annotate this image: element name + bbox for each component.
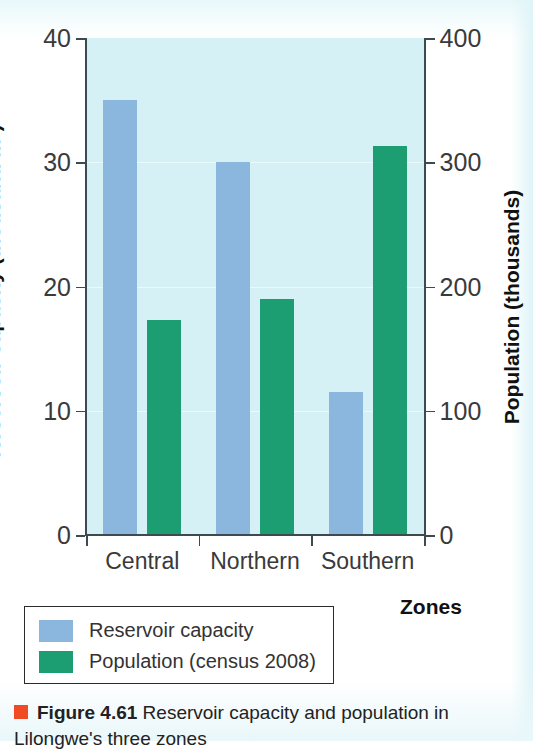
x-axis-tick [86,534,88,546]
y-axis-left-tick [76,411,85,413]
y-axis-right-tick-label: 200 [440,274,482,299]
y-axis-left-tick-label: 40 [43,26,71,51]
legend-label-population: Population (census 2008) [89,650,316,673]
y-axis-right-tick [426,535,435,537]
figure-number: Figure 4.61 [37,702,137,723]
legend: Reservoir capacity Population (census 20… [24,606,334,684]
bar-chart: 010203040 0100200300400 CentralNorthernS… [0,0,533,600]
y-axis-right-tick [426,411,435,413]
legend-label-reservoir-capacity: Reservoir capacity [89,619,254,642]
y-axis-right: 0100200300400 [424,38,426,535]
legend-swatch-population [39,651,73,673]
y-axis-right-tick-label: 300 [440,150,482,175]
y-axis-left-tick-label: 30 [43,150,71,175]
plot-area [86,38,424,535]
y-axis-left-tick [76,162,85,164]
y-axis-left-tick-label: 10 [43,398,71,423]
x-axis-tick-label: Northern [210,548,299,575]
y-axis-left-tick [76,535,85,537]
y-axis-left-title: Reservoir capacity (thousand m3) [0,124,5,458]
y-axis-left-title-close: ) [0,124,4,131]
y-axis-right-tick [426,287,435,289]
x-axis-tick-label: Southern [321,548,414,575]
legend-item: Reservoir capacity [39,615,333,646]
y-axis-right-tick-label: 100 [440,398,482,423]
y-axis-left-tick-label: 20 [43,274,71,299]
figure-caption: Figure 4.61 Reservoir capacity and popul… [14,700,519,751]
y-axis-left-title-main: Reservoir capacity (thousand m [0,139,4,458]
y-axis-right-tick [426,38,435,40]
legend-swatch-reservoir-capacity [39,620,73,642]
bar-reservoir-capacity [103,100,137,535]
y-axis-right-tick-label: 400 [440,26,482,51]
y-axis-right-title: Population (thousands) [500,190,524,424]
orange-square-marker-icon [14,705,28,719]
y-axis-right-tick-label: 0 [440,523,454,548]
x-axis-tick [424,534,426,546]
x-axis-tick [199,534,201,546]
bar-population [373,146,407,535]
y-axis-left-tick [76,38,85,40]
y-axis-left: 010203040 [85,38,87,535]
bar-reservoir-capacity [216,162,250,535]
bar-population [147,320,181,535]
x-axis-tick [311,534,313,546]
x-axis [85,534,426,536]
y-axis-right-tick [426,162,435,164]
bar-reservoir-capacity [329,392,363,535]
y-axis-left-tick [76,287,85,289]
bar-population [260,299,294,535]
y-axis-left-tick-label: 0 [57,523,71,548]
x-axis-title: Zones [400,595,462,619]
x-axis-tick-label: Central [105,548,179,575]
legend-item: Population (census 2008) [39,646,333,677]
